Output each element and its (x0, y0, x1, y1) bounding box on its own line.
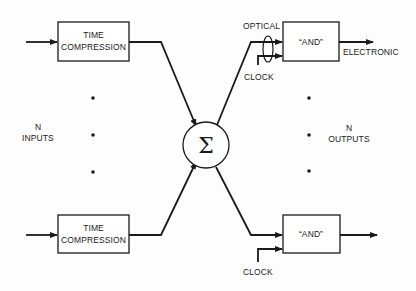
top-to-summer-arrow (129, 42, 196, 126)
bottom-clock-label: CLOCK (243, 267, 273, 277)
n-outputs-line1: N (346, 123, 352, 133)
summer-node: Σ (183, 122, 229, 168)
bottom-time-compression-block: TIME COMPRESSION (58, 215, 129, 253)
bottom-block-line1: TIME (83, 223, 104, 233)
left-ellipsis-dots (91, 96, 95, 174)
top-time-compression-block: TIME COMPRESSION (58, 22, 129, 61)
bottom-and-gate: “AND” (283, 215, 340, 253)
electronic-label: ELECTRONIC (343, 47, 399, 57)
top-block-line2: COMPRESSION (61, 42, 126, 52)
bottom-block-line2: COMPRESSION (61, 235, 126, 245)
top-block-line1: TIME (83, 30, 104, 40)
input-grouping-ellipse (263, 36, 273, 62)
sigma-symbol: Σ (198, 133, 214, 158)
bottom-clock-arrow (258, 249, 282, 262)
bottom-and-label: “AND” (299, 229, 323, 239)
n-outputs-line2: OUTPUTS (328, 134, 370, 144)
summer-to-bottom-gate-arrow (216, 167, 282, 235)
right-ellipsis-dots (307, 96, 311, 173)
optical-label: OPTICAL (243, 21, 280, 31)
optical-tdm-diagram: TIME COMPRESSION TIME COMPRESSION N INPU… (0, 0, 416, 291)
n-inputs-line2: INPUTS (22, 133, 54, 143)
n-inputs-line1: N (35, 122, 41, 132)
bottom-to-summer-arrow (129, 162, 196, 235)
top-and-label: “AND” (299, 37, 323, 47)
top-and-gate: “AND” (283, 22, 339, 61)
top-clock-label: CLOCK (244, 72, 274, 82)
